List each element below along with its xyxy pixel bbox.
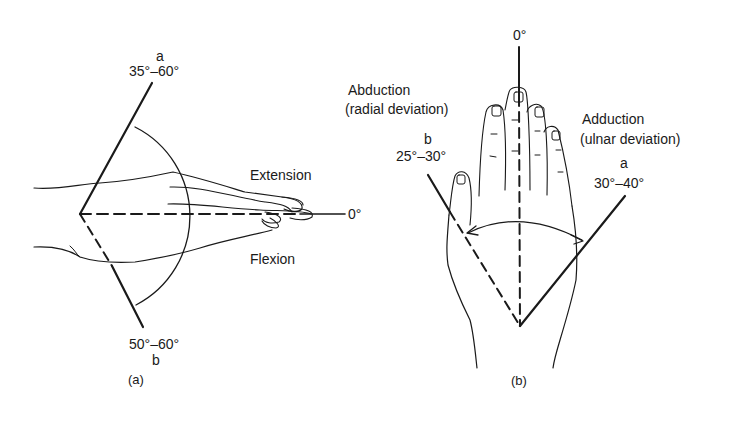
line-a-range-label: 35°–60° xyxy=(129,63,179,79)
abduction-line-b-dashed xyxy=(450,212,520,326)
knuckle-marks xyxy=(490,120,563,172)
abduction-sub-label: (radial deviation) xyxy=(345,101,449,117)
adduction-line-a xyxy=(520,196,625,326)
arrowhead-right xyxy=(571,235,583,244)
abduction-range-label: 25°–30° xyxy=(396,148,446,164)
adduction-range-label: 30°–40° xyxy=(594,175,644,191)
wrist-range-of-motion-figure xyxy=(0,0,738,431)
nail-index xyxy=(492,106,501,116)
extension-line-a xyxy=(80,83,152,214)
range-arc-a xyxy=(135,127,190,305)
wrist-crease xyxy=(70,246,80,257)
flexion-label: Flexion xyxy=(250,251,295,267)
adduction-label: Adduction xyxy=(582,111,644,127)
little-finger xyxy=(544,126,572,206)
panel-b-caption: (b) xyxy=(511,373,527,389)
middle-finger xyxy=(505,87,530,190)
line-b-letter: b xyxy=(150,352,162,368)
neutral-axis-dashed-b xyxy=(519,96,520,326)
fingertip-1 xyxy=(282,197,302,212)
zero-degree-label-b: 0° xyxy=(513,27,526,43)
flexion-line-b-solid xyxy=(112,266,143,327)
line-b-range-label: 50°–60° xyxy=(129,336,179,352)
hand-outline-radial xyxy=(447,215,477,368)
nail-thumb xyxy=(457,175,465,184)
panel-b-drawing xyxy=(428,47,625,368)
deviation-arc xyxy=(468,222,582,240)
zero-degree-label-a: 0° xyxy=(348,206,361,222)
adduction-sub-label: (ulnar deviation) xyxy=(580,131,680,147)
index-finger xyxy=(479,105,506,196)
abduction-line-b-solid xyxy=(428,175,450,212)
extension-label: Extension xyxy=(250,167,311,183)
abduction-letter: b xyxy=(422,131,434,147)
adduction-letter: a xyxy=(618,155,630,171)
panel-a-drawing xyxy=(34,83,345,327)
line-a-letter: a xyxy=(154,48,166,64)
hand-outline-ulnar xyxy=(553,206,577,368)
abduction-label: Abduction xyxy=(348,82,410,98)
panel-a-caption: (a) xyxy=(128,372,144,388)
